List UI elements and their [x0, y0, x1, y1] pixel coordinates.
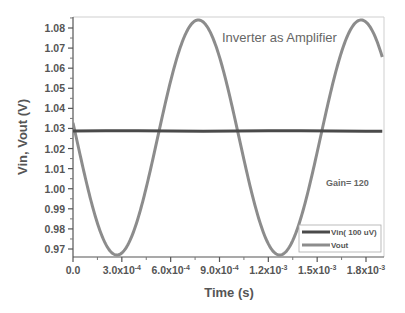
series-vout-line — [73, 20, 382, 255]
series-layer — [73, 20, 382, 255]
y-axis-title: Vin, Vout (V) — [15, 99, 30, 175]
y-tick-label: 1.05 — [45, 82, 66, 94]
y-tick-label: 0.97 — [45, 243, 66, 255]
y-tick-label: 0.98 — [45, 223, 66, 235]
y-tick-label: 1.03 — [45, 122, 66, 134]
y-tick-label: 1.07 — [45, 42, 66, 54]
legend-label-vin: Vin( 100 uV) — [331, 228, 377, 237]
x-tick-label: 1.5x10-3 — [298, 264, 336, 276]
y-axis: 0.970.980.991.001.011.021.031.041.051.06… — [45, 17, 73, 257]
plot-frame — [73, 17, 384, 257]
x-axis: 0.03.0x10-46.0x10-49.0x10-41.2x10-31.5x1… — [66, 257, 386, 276]
y-tick-label: 1.06 — [45, 62, 66, 74]
chart-legend: Vin( 100 uV) Vout — [299, 225, 381, 252]
y-tick-label: 1.04 — [45, 102, 66, 114]
chart-annotation-title: Inverter as Amplifier — [222, 30, 338, 45]
line-chart: 0.970.980.991.001.011.021.031.041.051.06… — [0, 0, 405, 313]
y-tick-label: 1.02 — [45, 143, 66, 155]
x-tick-label: 9.0x10-4 — [200, 264, 238, 276]
y-tick-label: 1.01 — [45, 163, 66, 175]
legend-label-vout: Vout — [331, 241, 349, 250]
y-tick-label: 1.00 — [45, 183, 66, 195]
y-tick-label: 0.99 — [45, 203, 66, 215]
x-tick-label: 0.0 — [66, 264, 81, 276]
x-tick-label: 1.2x10-3 — [249, 264, 287, 276]
chart-annotation-gain: Gain= 120 — [326, 178, 369, 188]
x-tick-label: 3.0x10-4 — [103, 264, 141, 276]
x-tick-label: 1.8x10-3 — [347, 264, 385, 276]
y-tick-label: 1.08 — [45, 22, 66, 34]
x-tick-label: 6.0x10-4 — [151, 264, 189, 276]
x-axis-title: Time (s) — [204, 285, 254, 300]
